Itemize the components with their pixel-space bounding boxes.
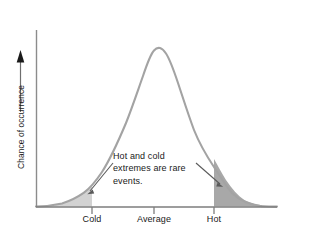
x-tick-label-average: Average [124,214,184,224]
bell-curve-figure: Chance of occurrence Cold Average Hot Ho… [0,0,326,239]
x-tick-label-cold: Cold [62,214,122,224]
annotation-line-2: extremes are rare [113,162,205,174]
leader-line-cold [87,163,113,194]
y-axis-label: Chance of occurrence [16,57,26,197]
chart-canvas [0,0,326,239]
annotation-line-1: Hot and cold [113,150,205,162]
annotation-line-3: events. [113,175,205,187]
annotation-text: Hot and cold extremes are rare events. [113,150,205,187]
x-tick-label-hot: Hot [184,214,244,224]
